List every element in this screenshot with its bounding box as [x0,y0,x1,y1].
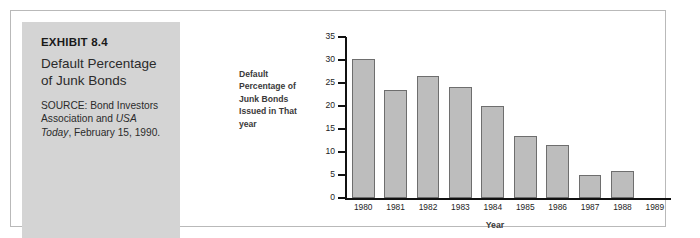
exhibit-label: EXHIBIT 8.4 [41,36,169,48]
bar-1981 [384,90,407,198]
bar-slot [444,37,476,198]
y-axis-tick-label: 25 [325,77,335,87]
exhibit-caption-panel: EXHIBIT 8.4 Default Percentage of Junk B… [22,22,180,238]
y-axis-tick: 0 [338,197,346,199]
bar-1984 [481,106,504,198]
x-axis-tick-label: 1983 [444,202,476,212]
x-axis-title: Year [319,220,671,230]
x-axis-tick-label: 1981 [379,202,411,212]
bar-1980 [352,59,375,198]
bar-slot [347,37,379,198]
bar-slot [477,37,509,198]
exhibit-frame: EXHIBIT 8.4 Default Percentage of Junk B… [10,10,666,227]
plot-area: 05101520253035 1980198119821983198419851… [319,34,671,202]
x-axis-tick-label: 1982 [412,202,444,212]
y-axis-title: Default Percentage of Junk Bonds Issued … [239,68,309,130]
y-axis-tick: 20 [338,105,346,107]
y-axis-tick-label: 35 [325,31,335,41]
y-axis-tick-label: 15 [325,123,335,133]
y-axis-tick-label: 30 [325,54,335,64]
bar-1982 [417,76,440,198]
x-axis-tick-label: 1987 [574,202,606,212]
y-axis-tick-label: 0 [330,192,335,202]
bar-1983 [449,87,472,198]
x-axis-tick-label: 1988 [606,202,638,212]
caption-text-block: EXHIBIT 8.4 Default Percentage of Junk B… [41,36,169,140]
bar-slot [379,37,411,198]
bar-1986 [546,145,569,198]
bar-1987 [579,175,602,198]
x-axis-tick-label: 1986 [541,202,573,212]
x-axis-tick-label: 1985 [509,202,541,212]
source-prefix-text: SOURCE: Bond Investors Association and [41,100,158,125]
bar-slot [412,37,444,198]
exhibit-source: SOURCE: Bond Investors Association and U… [41,99,169,140]
x-axis-tick-label: 1984 [477,202,509,212]
y-axis-tick: 25 [338,82,346,84]
y-axis-tick: 35 [338,36,346,38]
bar-series [347,37,671,198]
bar-slot [606,37,638,198]
x-axis-tick-label: 1980 [347,202,379,212]
bar-1988 [611,171,634,198]
bar-slot [509,37,541,198]
bar-chart: Default Percentage of Junk Bonds Issued … [191,22,676,238]
y-axis-tick-label: 20 [325,100,335,110]
x-axis-tick-label: 1989 [639,202,671,212]
y-axis-tick: 5 [338,174,346,176]
source-suffix-text: , February 15, 1990. [68,127,160,138]
bar-slot [639,37,671,198]
y-axis-tick-label: 10 [325,146,335,156]
y-axis-tick: 10 [338,151,346,153]
bar-1985 [514,136,537,198]
exhibit-title: Default Percentage of Junk Bonds [41,55,169,90]
x-axis-line [345,198,671,200]
bar-slot [574,37,606,198]
y-axis-tick: 15 [338,128,346,130]
bar-slot [541,37,573,198]
y-axis-tick: 30 [338,59,346,61]
x-axis-tick-labels: 1980198119821983198419851986198719881989 [347,202,671,212]
y-axis-tick-label: 5 [330,169,335,179]
